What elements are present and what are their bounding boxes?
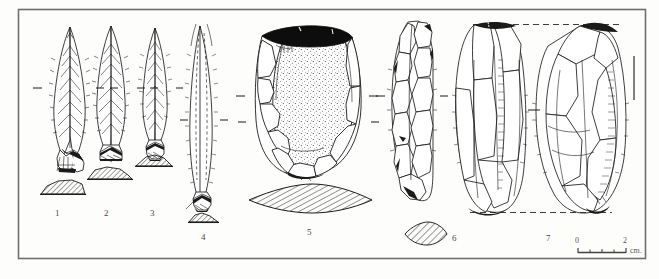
figure-7-drawing: [452, 22, 629, 216]
scale-bar-end-label: 2: [623, 236, 627, 245]
figure-4-cross-section: [188, 213, 219, 222]
figure-2-drawing: [92, 26, 130, 162]
figure-label-7: 7: [546, 233, 551, 243]
figure-label-6: 6: [452, 233, 457, 243]
figure-3-cross-section: [135, 155, 173, 166]
figure-5-cross-section: [249, 184, 372, 213]
scale-bar: [578, 248, 626, 253]
figure-label-1: 1: [55, 208, 60, 218]
figure-label-2: 2: [104, 208, 109, 218]
figure-label-4: 4: [201, 232, 206, 242]
figure-6-drawing: [387, 21, 437, 201]
scale-bar-start-label: 0: [575, 236, 579, 245]
lithic-plate-drawing: [0, 0, 659, 279]
figure-label-5: 5: [307, 227, 312, 237]
figure-1-cross-section: [40, 180, 86, 194]
figure-5-drawing: [255, 26, 361, 181]
figure-6-cross-section: [405, 222, 447, 245]
figure-2-cross-section: [87, 167, 133, 179]
figure-1-drawing: [49, 27, 90, 173]
figure-4-drawing: [185, 24, 218, 212]
illustration-plate: 1 2 3 4 5 6 7 0 2 cm.: [0, 0, 659, 279]
figure-3-drawing: [138, 28, 172, 161]
scale-bar-unit-label: cm.: [630, 246, 642, 255]
figure-label-3: 3: [150, 208, 155, 218]
